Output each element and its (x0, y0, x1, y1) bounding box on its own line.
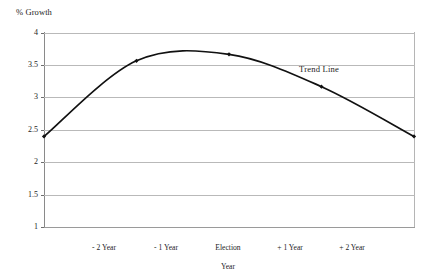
y-tick-label-1-5: 1.5 (4, 191, 38, 199)
y-axis-title: % Growth (16, 7, 52, 17)
y-tick-mark-4 (41, 33, 44, 34)
x-tick-label-line1: + 2 Year (339, 243, 365, 252)
gridline-2-5 (44, 130, 415, 131)
y-tick-label-2: 2 (4, 158, 38, 166)
data-point-marker (319, 85, 323, 89)
y-tick-mark-2-5 (41, 130, 44, 131)
y-tick-label-3-5: 3.5 (4, 61, 38, 69)
trend-line-path (44, 51, 414, 137)
y-tick-mark-3 (41, 97, 44, 98)
x-tick-label-line1: + 1 Year (277, 243, 303, 252)
x-tick-label-line1: - 1 Year (154, 243, 178, 252)
x-tick-label-line2: Year (221, 262, 235, 271)
gridline-3-5 (44, 65, 415, 66)
x-tick-label-plus-2-year: + 2 Year (312, 233, 392, 252)
y-tick-mark-2 (41, 162, 44, 163)
y-tick-label-3: 3 (4, 93, 38, 101)
x-tick-label-line1: - 2 Year (92, 243, 116, 252)
y-tick-label-2-5: 2.5 (4, 126, 38, 134)
trend-line-annotation: Trend Line (299, 64, 339, 74)
gridline-1-5 (44, 195, 415, 196)
data-point-marker (134, 59, 138, 63)
x-tick-label-line1: Election (215, 243, 240, 252)
y-tick-mark-3-5 (41, 65, 44, 66)
data-point-marker (227, 52, 231, 56)
gridline-2 (44, 162, 415, 163)
y-tick-label-1: 1 (4, 223, 38, 231)
y-tick-mark-1 (41, 227, 44, 228)
gridline-3 (44, 97, 415, 98)
y-tick-label-4: 4 (4, 29, 38, 37)
y-tick-mark-1-5 (41, 195, 44, 196)
gridline-4 (44, 33, 415, 34)
x-axis-line (44, 227, 415, 228)
